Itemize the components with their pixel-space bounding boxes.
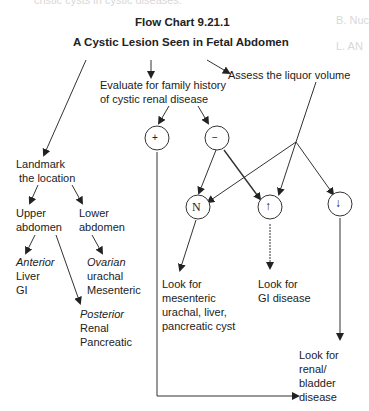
look-renal-node: Look for renal/ bladder disease — [299, 348, 339, 404]
chart-title: A Cystic Lesion Seen in Fetal Abdomen — [73, 36, 289, 48]
anterior-node: Anterior Liver GI — [16, 255, 55, 297]
lower-abdomen-node: Lower abdomen — [79, 206, 125, 234]
normal-symbol: N — [192, 200, 201, 214]
landmark-node: Landmark the location — [16, 157, 75, 185]
chart-label: Flow Chart 9.21.1 — [135, 16, 230, 28]
margin-fragment: L. AN — [336, 40, 363, 52]
look-gi-node: Look for GI disease — [258, 277, 311, 305]
look-mesenteric-node: Look for mesenteric urachal, liver, panc… — [162, 277, 235, 333]
margin-fragment: B. Nuc — [336, 14, 369, 26]
upper-abdomen-node: Upper abdomen — [16, 206, 62, 234]
liquor-volume-node: Assess the liquor volume — [228, 68, 350, 82]
lower-abdomen-list: Ovarian urachal Mesenteric — [87, 255, 141, 297]
minus-symbol: − — [212, 131, 218, 145]
increased-symbol: ↑ — [265, 199, 271, 213]
header-fragment: cristic cysts in cystic diseases. — [34, 0, 182, 6]
family-history-node: Evaluate for family history of cystic re… — [100, 78, 226, 106]
plus-symbol: + — [152, 131, 158, 145]
decreased-symbol: ↓ — [335, 196, 341, 210]
posterior-node: Posterior Renal Pancreatic — [80, 307, 132, 349]
